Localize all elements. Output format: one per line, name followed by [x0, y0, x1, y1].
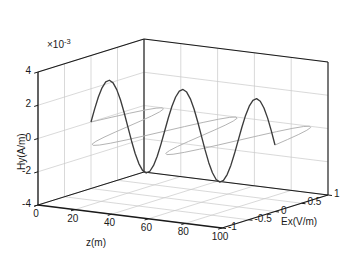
x-tick-4: 1 [334, 188, 340, 199]
y-tick-3: -2 [22, 165, 31, 176]
hy-wave-curve [91, 80, 275, 182]
z-tick-0: 0 [33, 208, 39, 219]
y-tick-0: 4 [25, 65, 31, 76]
y-axis-exponent-label: ×10-3 [47, 37, 71, 50]
x-axis-title: Ex(V/m) [281, 216, 317, 227]
z-axis-title: z(m) [86, 237, 106, 248]
exponent-power: -3 [64, 37, 71, 46]
data-series [91, 80, 311, 182]
z-tick-2: 40 [104, 217, 115, 228]
grid-lines [38, 39, 328, 228]
x-tick-3: 0.5 [308, 196, 322, 207]
y-tick-2: 0 [25, 132, 31, 143]
z-tick-4: 80 [178, 226, 189, 237]
tick-marks [34, 72, 332, 229]
z-tick-1: 20 [67, 213, 78, 224]
x-tick-1: -0.5 [255, 213, 272, 224]
x-tick-0: -1 [228, 221, 237, 232]
z-tick-5: 100 [212, 231, 229, 242]
matlab-3d-figure: ×10-3 Hy(A/m) z(m) Ex(V/m) 420-2-4020406… [0, 0, 345, 268]
y-tick-4: -4 [22, 198, 31, 209]
exponent-mantissa: ×10 [47, 39, 64, 50]
x-tick-2: 0 [281, 205, 287, 216]
y-tick-1: 2 [25, 98, 31, 109]
z-tick-3: 60 [141, 222, 152, 233]
